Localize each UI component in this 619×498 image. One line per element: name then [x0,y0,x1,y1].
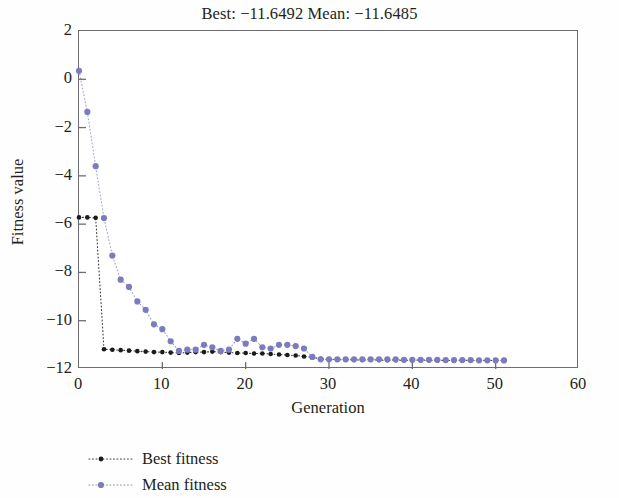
x-tick-label: 30 [298,374,358,394]
y-tick-label: −8 [2,261,72,281]
data-point [135,349,140,354]
data-point [134,298,140,304]
data-point [334,356,340,362]
series-line [79,217,504,360]
data-point [285,353,290,358]
x-tick-label: 50 [465,374,525,394]
data-point [277,352,282,357]
data-point [501,357,507,363]
series-best-fitness [77,215,507,363]
data-point [359,356,365,362]
chart-legend: Best fitnessMean fitness [88,446,418,498]
fitness-chart-figure: Best: −11.6492 Mean: −11.6485 Fitness va… [0,0,619,498]
data-point [93,216,98,221]
y-tick-label: −2 [2,117,72,137]
legend-label: Mean fitness [142,475,227,495]
data-point [459,357,465,363]
data-point [109,252,115,258]
data-point [326,356,332,362]
y-tick-label: −6 [2,213,72,233]
data-point [76,68,82,74]
data-point [101,215,107,221]
data-point [343,356,349,362]
data-point [93,163,99,169]
y-tick-label: 2 [2,20,72,40]
data-point [368,356,374,362]
x-tick-label: 40 [381,374,441,394]
data-point [143,349,148,354]
data-point [252,351,257,356]
data-point [318,356,324,362]
data-point [493,357,499,363]
data-point [202,350,207,355]
data-point [127,348,132,353]
data-point [418,357,424,363]
plot-area [78,30,578,368]
data-point [85,215,90,220]
chart-title: Best: −11.6492 Mean: −11.6485 [0,4,619,24]
data-point [302,354,307,359]
legend-marker-icon [88,478,134,492]
data-point [226,347,232,353]
data-point [159,326,165,332]
data-point [476,357,482,363]
y-axis-tick-labels: 20−2−4−6−8−10−12 [0,30,72,368]
data-point [301,345,307,351]
data-point [243,351,248,356]
data-point [376,356,382,362]
x-tick-label: 20 [215,374,275,394]
data-point [484,357,490,363]
y-tick-label: −4 [2,165,72,185]
data-point [201,342,207,348]
data-point [434,357,440,363]
data-point [451,357,457,363]
data-point [168,338,174,344]
data-point [384,356,390,362]
series-line [79,71,504,361]
data-point [268,345,274,351]
data-point [152,350,157,355]
legend-marker-icon [88,452,134,466]
data-point [176,348,182,354]
data-point [77,215,82,220]
data-point [443,357,449,363]
data-point [393,356,399,362]
data-point [234,336,240,342]
legend-label: Best fitness [142,449,219,469]
data-point [409,357,415,363]
data-point [268,352,273,357]
data-point [168,350,173,355]
data-point [426,357,432,363]
x-tick-label: 0 [48,374,108,394]
x-tick-label: 10 [131,374,191,394]
legend-item-mean-fitness[interactable]: Mean fitness [88,472,418,498]
data-point [468,357,474,363]
data-point [401,357,407,363]
y-axis-label-wrapper: Fitness value [0,0,1,1]
data-point [143,307,149,313]
data-point [102,347,107,352]
data-point [243,341,249,347]
data-point [118,277,124,283]
data-point [118,348,123,353]
data-point [126,284,132,290]
data-point [276,342,282,348]
y-tick-label: −10 [2,310,72,330]
data-point [260,351,265,356]
data-point [218,348,224,354]
x-tick-label: 60 [548,374,608,394]
data-point [110,347,115,352]
data-point [84,109,90,115]
data-point [284,342,290,348]
data-point [235,351,240,356]
x-axis-tick-labels: 0102030405060 [78,374,578,398]
data-point [309,354,315,360]
data-point [184,347,190,353]
data-point [351,356,357,362]
data-point [259,344,265,350]
plot-svg [79,31,579,369]
data-point [293,343,299,349]
data-point [293,353,298,358]
legend-item-best-fitness[interactable]: Best fitness [88,446,418,472]
series-mean-fitness [76,68,507,364]
